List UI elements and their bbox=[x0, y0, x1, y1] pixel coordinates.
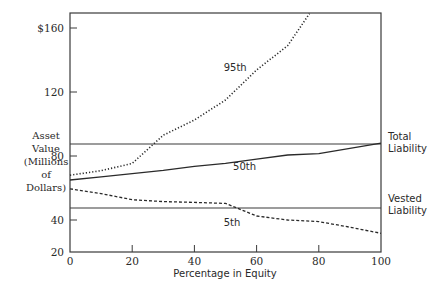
x-tick-label: 80 bbox=[312, 255, 325, 267]
vested-liability-label: Vested Liability bbox=[388, 193, 427, 217]
y-tick-label: 20 bbox=[51, 246, 64, 258]
x-tick-label: 0 bbox=[67, 255, 74, 267]
y-axis-title-line: Value bbox=[22, 142, 70, 155]
series-label-95th: 95th bbox=[224, 62, 247, 73]
total-liability-label: Total Liability bbox=[388, 131, 427, 155]
y-tick-label: $160 bbox=[37, 22, 64, 34]
series-lines bbox=[70, 14, 381, 234]
y-axis-title-line: Asset bbox=[22, 129, 70, 142]
y-tick-label: 40 bbox=[51, 214, 64, 226]
series-label-50th: 50th bbox=[233, 161, 256, 172]
label-line: Total bbox=[388, 131, 427, 143]
y-axis-title-line: of bbox=[22, 168, 70, 181]
y-tick-label: 120 bbox=[44, 86, 64, 98]
x-tick-label: 40 bbox=[188, 255, 201, 267]
label-line: Liability bbox=[388, 205, 427, 217]
y-axis-title: Asset Value (Millions of Dollars) bbox=[22, 129, 70, 194]
x-tick-label: 100 bbox=[371, 255, 391, 267]
series-95th-line bbox=[70, 14, 310, 176]
label-line: Vested bbox=[388, 193, 427, 205]
series-label-5th: 5th bbox=[224, 217, 241, 228]
reference-lines bbox=[70, 144, 381, 208]
x-tick-label: 60 bbox=[250, 255, 263, 267]
y-axis-title-line: Dollars) bbox=[22, 181, 70, 194]
y-axis-title-line: (Millions bbox=[22, 155, 70, 168]
series-50th-line bbox=[70, 143, 381, 180]
x-tick-label: 20 bbox=[126, 255, 139, 267]
plot-frame bbox=[70, 13, 381, 252]
label-line: Liability bbox=[388, 143, 427, 155]
x-axis-title: Percentage in Equity bbox=[173, 268, 276, 279]
